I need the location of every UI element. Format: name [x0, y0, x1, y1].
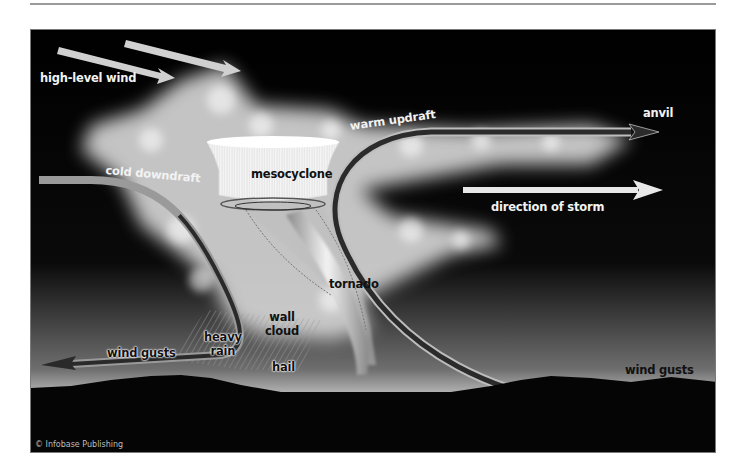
label-anvil: anvil: [643, 106, 673, 120]
label-high-level-wind: high-level wind: [40, 71, 136, 85]
label-wind-gusts-left: wind gusts: [107, 346, 176, 360]
label-hail: hail: [272, 360, 295, 374]
top-rule: [30, 3, 716, 5]
label-heavy-rain-line2: rain: [204, 344, 242, 358]
label-heavy-rain-line1: heavy: [204, 330, 242, 344]
label-direction-of-storm: direction of storm: [491, 200, 604, 214]
label-wall-cloud: wall cloud: [265, 310, 299, 338]
label-wall-cloud-line1: wall: [265, 310, 299, 324]
label-tornado: tornado: [329, 277, 379, 291]
label-wall-cloud-line2: cloud: [265, 324, 299, 338]
storm-diagram: high-level wind anvil warm updraft mesoc…: [30, 29, 716, 453]
publisher-credit: © Infobase Publishing: [35, 440, 123, 449]
label-wind-gusts-right: wind gusts: [625, 363, 694, 377]
label-heavy-rain: heavy rain: [204, 330, 242, 358]
label-mesocyclone: mesocyclone: [251, 167, 332, 181]
storm-illustration: [31, 30, 716, 453]
